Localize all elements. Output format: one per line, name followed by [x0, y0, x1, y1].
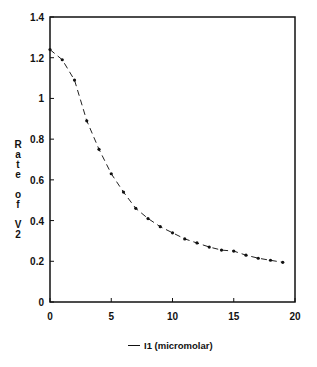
x-tick-label: 0: [47, 311, 53, 322]
series-line: [50, 50, 283, 263]
data-point: [159, 225, 162, 228]
data-point: [220, 248, 223, 251]
x-tick-label: 10: [167, 311, 179, 322]
y-tick-label: 1.4: [30, 12, 44, 23]
legend: I1 (micromolar): [128, 340, 213, 351]
data-point: [171, 231, 174, 234]
data-point: [146, 217, 149, 220]
y-tick-label: 0.8: [30, 134, 44, 145]
y-tick-label: 1: [38, 93, 44, 104]
y-tick-label: 0: [38, 297, 44, 308]
data-point: [73, 79, 76, 82]
data-series: [48, 48, 284, 264]
data-point: [97, 148, 100, 151]
legend-label: I1 (micromolar): [144, 340, 213, 351]
data-point: [134, 207, 137, 210]
chart-canvas: 00.20.40.60.811.21.405101520: [0, 0, 317, 367]
data-point: [110, 172, 113, 175]
y-tick-label: 0.6: [30, 175, 44, 186]
y-tick-label: 0.4: [30, 216, 44, 227]
x-tick-label: 20: [289, 311, 301, 322]
data-point: [48, 48, 51, 51]
data-point: [85, 119, 88, 122]
tick-labels: 00.20.40.60.811.21.405101520: [30, 12, 301, 322]
data-point: [61, 58, 64, 61]
data-point: [269, 259, 272, 262]
x-tick-label: 5: [108, 311, 114, 322]
legend-line-icon: [128, 345, 140, 346]
data-point: [244, 254, 247, 257]
data-point: [183, 237, 186, 240]
y-axis-label: Rate of V2: [13, 140, 23, 240]
data-point: [232, 250, 235, 253]
x-tick-label: 15: [228, 311, 240, 322]
data-point: [195, 241, 198, 244]
data-point: [257, 257, 260, 260]
data-point: [208, 245, 211, 248]
data-point: [122, 190, 125, 193]
data-point: [281, 261, 284, 264]
y-axis-label-letter: 2: [13, 230, 23, 240]
y-tick-label: 0.2: [30, 256, 44, 267]
y-tick-label: 1.2: [30, 53, 44, 64]
